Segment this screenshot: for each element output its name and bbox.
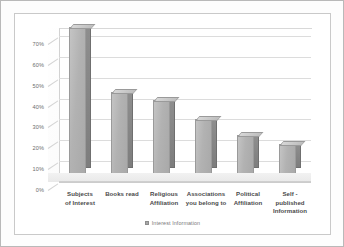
bar-front-face	[237, 135, 254, 173]
gridline-20%	[59, 140, 311, 141]
y-axis-tick-label: 0%	[36, 187, 44, 193]
bar-side-face	[296, 144, 301, 168]
category-label: Books read	[101, 190, 143, 199]
axis-tick-0%	[48, 183, 59, 190]
bar-top-face	[279, 141, 306, 146]
category-label: PoliticalAffiliation	[227, 190, 269, 207]
y-axis-tick-label: 70%	[33, 41, 45, 47]
category-axis-labels: Subjectsof InterestBooks readReligiousAf…	[59, 190, 311, 218]
bar-side-face	[128, 92, 133, 168]
category-label-line: Religious	[143, 190, 185, 199]
category-label-line: Affiliation	[143, 199, 185, 208]
gridline-60%	[59, 57, 311, 58]
category-label: Subjectsof Interest	[59, 190, 101, 207]
bar-front-face	[111, 92, 128, 173]
bar-top-face	[195, 116, 222, 121]
category-label-line: Associations	[185, 190, 227, 199]
category-label-line: Information	[269, 207, 311, 216]
category-label: Associationsyou belong to	[185, 190, 227, 207]
category-label-line: Self - published	[269, 190, 311, 207]
bar-top-face	[69, 24, 96, 29]
category-label-line: Subjects	[59, 190, 101, 199]
y-axis-tick-label: 40%	[33, 104, 45, 110]
gridline-0%	[59, 182, 311, 183]
y-axis-tick-label: 30%	[33, 124, 45, 130]
category-label-line: Affiliation	[227, 199, 269, 208]
category-label-line: Political	[227, 190, 269, 199]
legend-swatch-icon	[145, 221, 149, 225]
bar-top-face	[111, 89, 138, 94]
bar-front-face	[195, 119, 212, 173]
category-label-line: of Interest	[59, 199, 101, 208]
gridline-40%	[59, 99, 311, 100]
y-axis-tick-label: 60%	[33, 62, 45, 68]
gridline-10%	[59, 161, 311, 162]
gridline-50%	[59, 78, 311, 79]
chart-frame: 70%60%50%40%30%20%10%0% Subjectsof Inter…	[14, 13, 331, 235]
chart-legend: Interest Information	[15, 220, 330, 226]
bar-side-face	[170, 100, 175, 168]
legend-item-label: Interest Information	[152, 220, 200, 226]
category-label: Self - publishedInformation	[269, 190, 311, 216]
bar-front-face	[153, 100, 170, 173]
bar-side-face	[86, 27, 91, 168]
category-label-line: you belong to	[185, 199, 227, 208]
gridline-70%	[59, 36, 311, 37]
plot-back-wall	[59, 28, 312, 175]
bar-side-face	[254, 135, 259, 168]
gridline-30%	[59, 119, 311, 120]
plot-area: 70%60%50%40%30%20%10%0%	[48, 28, 311, 182]
chart-image: 70%60%50%40%30%20%10%0% Subjectsof Inter…	[0, 0, 344, 247]
category-label: ReligiousAffiliation	[143, 190, 185, 207]
y-axis-tick-label: 20%	[33, 145, 45, 151]
bar-front-face	[279, 144, 296, 173]
bar-side-face	[212, 119, 217, 168]
category-label-line: Books read	[101, 190, 143, 199]
bar-top-face	[153, 97, 180, 102]
y-axis-tick-label: 50%	[33, 83, 45, 89]
y-axis-tick-label: 10%	[33, 166, 45, 172]
bar-front-face	[69, 27, 86, 173]
